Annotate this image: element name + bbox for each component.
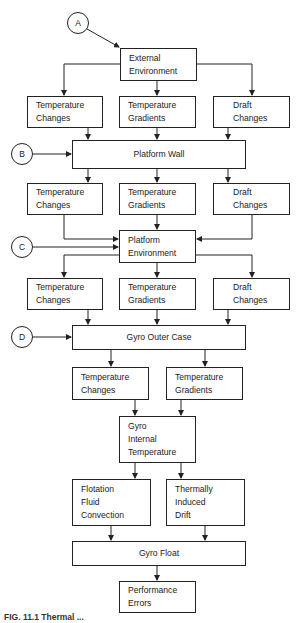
node-text: Draft — [233, 281, 252, 294]
row2-draft-changes-box: Draft Changes — [213, 183, 290, 215]
external-environment-box: External Environment — [120, 48, 197, 81]
node-text: Temperature — [128, 446, 176, 459]
node-text: Temperature — [36, 281, 84, 294]
node-text: Errors — [128, 597, 151, 610]
node-text: Thermally — [175, 483, 213, 496]
node-text: Fluid — [81, 496, 100, 509]
gyro-float-box: Gyro Float — [72, 541, 246, 566]
node-text: Changes — [233, 294, 267, 307]
row3-temperature-gradients-box: Temperature Gradients — [119, 278, 196, 310]
marker-b: B — [11, 143, 33, 165]
platform-wall-box: Platform Wall — [72, 140, 246, 169]
row3-draft-changes-box: Draft Changes — [213, 278, 290, 310]
marker-c: C — [11, 236, 33, 258]
figure-caption: FIG. 11.1 Thermal ... — [4, 612, 84, 622]
node-text: Changes — [81, 384, 115, 397]
node-text: Draft — [233, 186, 252, 199]
node-text: Temperature — [128, 186, 176, 199]
row1-draft-changes-box: Draft Changes — [213, 96, 290, 128]
node-text: Internal — [128, 433, 157, 446]
node-text: Convection — [81, 509, 124, 522]
node-text: Gradients — [128, 294, 165, 307]
node-text: Changes — [36, 294, 70, 307]
node-text: Flotation — [81, 483, 114, 496]
connector-lines — [0, 0, 302, 623]
platform-environment-box: Platform Environment — [119, 230, 196, 263]
marker-d: D — [11, 326, 33, 348]
thermally-induced-drift-box: Thermally Induced Drift — [166, 479, 245, 526]
performance-errors-box: Performance Errors — [119, 581, 196, 613]
node-text: Draft — [233, 99, 252, 112]
node-text: Performance — [128, 584, 177, 597]
node-text: Changes — [36, 199, 70, 212]
row4-temperature-gradients-box: Temperature Gradients — [166, 367, 243, 400]
node-text: Platform — [128, 234, 160, 247]
marker-a-label: A — [75, 18, 81, 28]
row1-temperature-changes-box: Temperature Changes — [27, 96, 103, 128]
node-text: Gyro Outer Case — [127, 331, 192, 344]
node-text: Gradients — [128, 112, 165, 125]
node-text: Changes — [233, 112, 267, 125]
node-text: Temperature — [128, 99, 176, 112]
node-text: Gradients — [175, 384, 212, 397]
node-text: Temperature — [175, 371, 223, 384]
gyro-internal-temperature-box: Gyro Internal Temperature — [119, 416, 196, 463]
node-text: Gyro — [128, 420, 147, 433]
marker-b-label: B — [19, 149, 25, 159]
node-text: Temperature — [81, 371, 129, 384]
row4-temperature-changes-box: Temperature Changes — [72, 367, 149, 400]
node-text: Platform Wall — [134, 148, 185, 161]
marker-c-label: C — [19, 242, 25, 252]
marker-a: A — [67, 12, 89, 34]
node-text: Temperature — [128, 281, 176, 294]
node-text: Gradients — [128, 199, 165, 212]
node-text: Temperature — [36, 99, 84, 112]
row3-temperature-changes-box: Temperature Changes — [27, 278, 103, 310]
node-text: Gyro Float — [139, 547, 179, 560]
node-text: Changes — [36, 112, 70, 125]
flotation-fluid-convection-box: Flotation Fluid Convection — [72, 479, 151, 526]
node-text: Drift — [175, 509, 191, 522]
row2-temperature-gradients-box: Temperature Gradients — [119, 183, 196, 215]
node-text: Induced — [175, 496, 206, 509]
node-text: Changes — [233, 199, 267, 212]
row1-temperature-gradients-box: Temperature Gradients — [119, 96, 196, 128]
node-text: Environment — [128, 247, 176, 260]
node-text: External — [129, 52, 161, 65]
gyro-outer-case-box: Gyro Outer Case — [72, 325, 246, 350]
node-text: Environment — [129, 65, 177, 78]
node-text: Temperature — [36, 186, 84, 199]
row2-temperature-changes-box: Temperature Changes — [27, 183, 103, 215]
marker-d-label: D — [19, 332, 25, 342]
